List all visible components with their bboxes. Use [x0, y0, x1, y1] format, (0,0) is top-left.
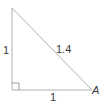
- hypotenuse: [12, 8, 92, 90]
- hypotenuse-label: 1.4: [56, 43, 71, 55]
- vertical-leg-label: 1: [3, 44, 9, 56]
- vertex-a-label: A: [91, 84, 99, 96]
- horizontal-leg-label: 1: [50, 91, 56, 103]
- right-angle-marker: [12, 83, 19, 90]
- right-triangle-diagram: 1 1.4 1 A: [0, 0, 100, 104]
